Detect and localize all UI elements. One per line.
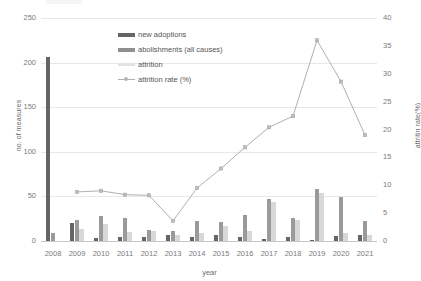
line-marker — [99, 189, 102, 192]
chart-legend: new adoptionsabolishments (all causes)at… — [118, 27, 223, 87]
line-marker — [339, 80, 342, 83]
line-marker — [147, 194, 150, 197]
color-swatch-icon — [118, 48, 135, 52]
line-marker — [123, 193, 126, 196]
legend-item[interactable]: new adoptions — [118, 27, 223, 42]
line-marker — [315, 39, 318, 42]
line-marker — [171, 219, 174, 222]
line-marker — [219, 167, 222, 170]
legend-item-label: abolishments (all causes) — [138, 45, 223, 54]
line-marker — [267, 126, 270, 129]
line-marker — [75, 190, 78, 193]
line-marker-icon — [118, 76, 135, 83]
legend-item[interactable]: attrition rate (%) — [118, 72, 223, 87]
legend-item-label: attrition rate (%) — [138, 75, 191, 84]
legend-item-label: attrition — [138, 60, 163, 69]
line-marker — [291, 115, 294, 118]
legend-item[interactable]: abolishments (all causes) — [118, 42, 223, 57]
legend-item-label: new adoptions — [138, 30, 186, 39]
color-swatch-icon — [118, 63, 135, 66]
x-axis-line — [41, 241, 377, 242]
color-swatch-icon — [118, 33, 135, 37]
legend-item[interactable]: attrition — [118, 57, 223, 72]
line-marker — [243, 146, 246, 149]
line-marker — [363, 134, 366, 137]
line-marker — [195, 186, 198, 189]
